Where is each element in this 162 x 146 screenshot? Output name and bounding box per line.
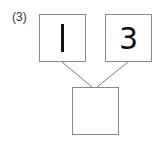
top-right-number-box: 3 — [105, 14, 152, 62]
digit-one — [61, 24, 64, 52]
answer-box[interactable] — [72, 87, 119, 135]
top-left-number-box — [39, 14, 86, 62]
digit-three: 3 — [119, 21, 138, 56]
